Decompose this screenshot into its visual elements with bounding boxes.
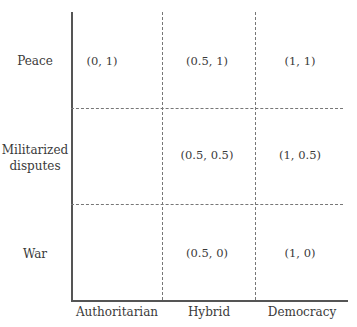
cell-war-hybrid: (0.5, 0) [167,246,247,260]
cell-peace-authoritarian: (0, 1) [62,54,142,68]
cell-peace-democracy: (1, 1) [260,54,340,68]
divider-hybrid-democracy [255,12,256,300]
divider-peace-disputes [71,108,343,109]
y-label-war: War [0,246,70,262]
cell-peace-hybrid: (0.5, 1) [167,54,247,68]
cell-disputes-democracy: (1, 0.5) [260,148,340,162]
y-label-peace: Peace [0,53,70,69]
y-label-militarized-line1: Militarized [0,142,70,158]
x-axis-line [71,300,348,302]
y-label-militarized-disputes: Militarized disputes [0,142,70,174]
cell-disputes-hybrid: (0.5, 0.5) [167,148,247,162]
divider-disputes-war [71,204,343,205]
divider-authoritarian-hybrid [162,12,163,300]
x-label-hybrid: Hybrid [163,305,255,319]
x-label-democracy: Democracy [256,305,348,319]
x-label-authoritarian: Authoritarian [71,305,163,319]
cell-war-democracy: (1, 0) [260,246,340,260]
y-label-militarized-line2: disputes [0,158,70,174]
